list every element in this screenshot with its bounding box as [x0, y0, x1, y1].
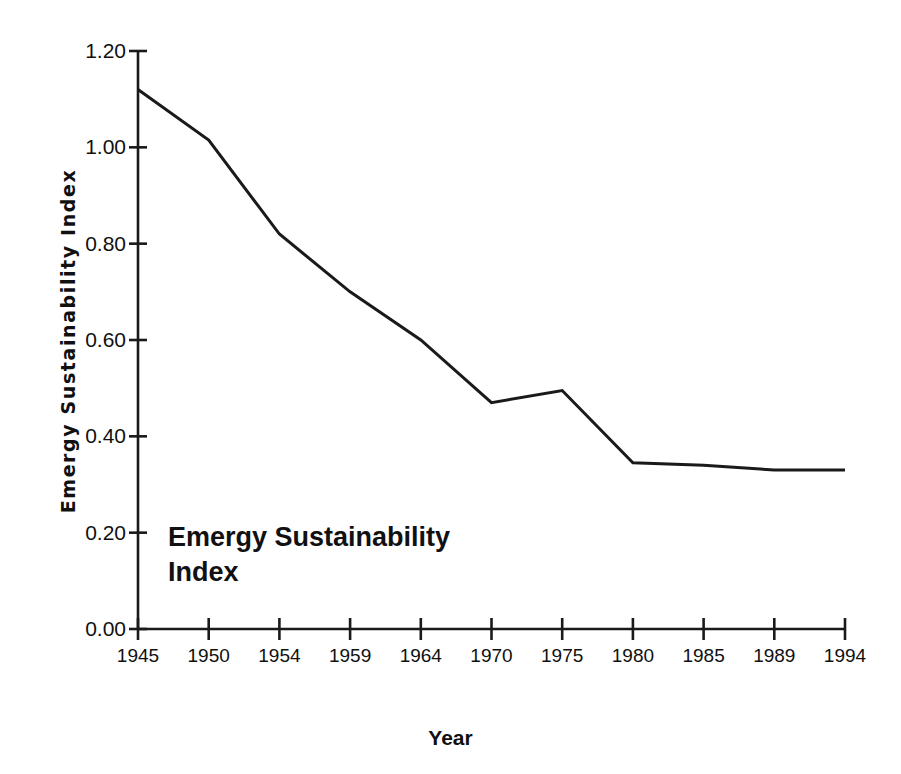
plot-annotation-label: Emergy Sustainability Index — [168, 520, 450, 589]
data-series — [138, 90, 845, 471]
y-axis-tick-label: 0.60 — [56, 328, 126, 352]
x-axis-title: Year — [0, 726, 901, 750]
y-axis-tick-label: 0.80 — [56, 232, 126, 256]
series-line — [138, 90, 845, 471]
x-axis-tick-label: 1994 — [800, 645, 890, 667]
x-axis-tick-labels: 1945195019541959196419701975198019851989… — [0, 645, 901, 685]
chart-figure: Emergy Sustainability Index 0.000.200.40… — [0, 0, 901, 774]
y-axis-tick-label: 1.00 — [56, 135, 126, 159]
y-axis-tick-label: 0.40 — [56, 424, 126, 448]
y-axis-tick-label: 0.20 — [56, 521, 126, 545]
y-axis-tick-label: 0.00 — [56, 617, 126, 641]
y-axis-tick-label: 1.20 — [56, 39, 126, 63]
